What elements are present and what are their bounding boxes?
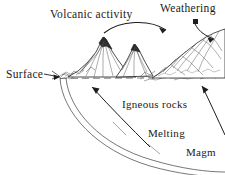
label-magma: Magm [186,146,216,158]
arrow-melting-to-surface-left [92,87,150,147]
arrow-melting-to-surface-right [202,86,225,135]
curved-arrow-volcano-to-weathering [104,22,166,33]
volcano-peak-right [116,44,153,77]
magma-chamber-boundary-arcs [60,78,225,175]
rock-cycle-diagram: Volcanic activity Weathering Surface Ign… [0,0,225,175]
eroded-hill-right [152,29,225,78]
label-igneous-rocks: Igneous rocks [122,98,187,110]
arrow-surface-label-pointer [44,71,60,80]
label-melting: Melting [148,127,185,139]
weathering-origin-square-marker [193,19,198,24]
label-volcanic-activity: Volcanic activity [50,8,133,20]
label-weathering: Weathering [160,2,216,14]
label-surface: Surface [6,68,43,80]
